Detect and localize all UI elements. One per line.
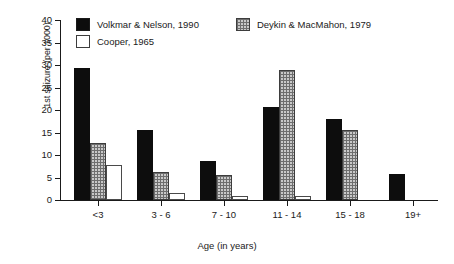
x-tick-label: 19+: [405, 209, 421, 220]
y-tick-label: 20: [41, 104, 52, 115]
x-tick: [224, 201, 225, 206]
legend-swatch-grid-icon: [236, 18, 250, 31]
bar: [74, 68, 90, 200]
x-tick-label: <3: [93, 209, 104, 220]
legend-row-1: Volkmar & Nelson, 1990 Deykin & MacMahon…: [76, 18, 371, 35]
x-tick-label: 3 - 6: [151, 209, 170, 220]
y-tick-label: 0: [47, 194, 52, 205]
legend-swatch-black-icon: [76, 18, 90, 31]
y-axis-line: [60, 20, 61, 201]
y-tick: 25: [55, 88, 60, 89]
bar: [169, 193, 185, 200]
x-axis-line: [60, 200, 438, 201]
x-tick: [161, 201, 162, 206]
y-tick: 5: [55, 178, 60, 179]
legend-item-volkmar-nelson[interactable]: Volkmar & Nelson, 1990: [76, 18, 199, 31]
y-tick-label: 15: [41, 127, 52, 138]
legend-label-deykin-macmahon: Deykin & MacMahon, 1979: [257, 18, 371, 31]
bar: [137, 130, 153, 200]
bar: [342, 130, 358, 200]
legend-swatch-white-icon: [76, 35, 90, 48]
x-tick: [413, 201, 414, 206]
legend-label-volkmar-nelson: Volkmar & Nelson, 1990: [97, 18, 199, 31]
y-tick-label: 40: [41, 14, 52, 25]
x-axis-title: Age (in years): [0, 240, 454, 251]
y-tick: 10: [55, 155, 60, 156]
bar: [90, 143, 106, 200]
bar: [216, 175, 232, 200]
y-tick: 35: [55, 43, 60, 44]
bar: [295, 196, 311, 201]
legend-label-cooper: Cooper, 1965: [97, 35, 154, 48]
y-tick: 15: [55, 133, 60, 134]
y-tick: 20: [55, 110, 60, 111]
bar: [200, 161, 216, 200]
bar: [263, 107, 279, 200]
y-tick: 40: [55, 20, 60, 21]
y-tick-label: 25: [41, 82, 52, 93]
x-tick: [98, 201, 99, 206]
x-tick: [287, 201, 288, 206]
bar: [153, 172, 169, 200]
legend-item-cooper[interactable]: Cooper, 1965: [76, 35, 154, 48]
y-tick-label: 5: [47, 172, 52, 183]
legend-item-deykin-macmahon[interactable]: Deykin & MacMahon, 1979: [236, 18, 371, 31]
bar: [106, 165, 122, 200]
x-tick-label: 15 - 18: [335, 209, 365, 220]
y-tick-label: 35: [41, 37, 52, 48]
y-tick: 0: [55, 200, 60, 201]
y-tick: 30: [55, 65, 60, 66]
legend: Volkmar & Nelson, 1990 Deykin & MacMahon…: [76, 18, 371, 52]
x-tick-label: 7 - 10: [212, 209, 236, 220]
y-tick-label: 10: [41, 149, 52, 160]
bar: [389, 174, 405, 200]
legend-row-2: Cooper, 1965: [76, 35, 371, 52]
x-tick-label: 11 - 14: [273, 209, 302, 220]
bar: [279, 70, 295, 200]
bar: [232, 196, 248, 201]
y-tick-label: 30: [41, 59, 52, 70]
x-tick: [350, 201, 351, 206]
seizure-age-bar-chart: 1st seizure (per 1000) 0510152025303540 …: [0, 0, 454, 264]
bar: [326, 119, 342, 200]
